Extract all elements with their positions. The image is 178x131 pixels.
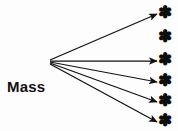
arrow-5 (50, 64, 157, 122)
arrow-group (50, 14, 157, 122)
source-label-line1: Mass (7, 78, 51, 95)
arrow-1 (50, 14, 157, 60)
mass-media-flow-diagram: Mass Media ✽✽✽✽✽✽ (0, 0, 178, 131)
source-label-line2: Media (7, 129, 51, 131)
arrow-4 (50, 63, 157, 102)
source-node-mass-media: Mass Media (7, 44, 51, 131)
